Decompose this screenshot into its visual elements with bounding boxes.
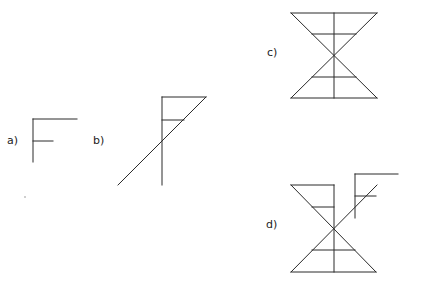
panel-d-label: d): [266, 218, 277, 231]
panel-c-label: c): [267, 46, 277, 59]
speck: [24, 196, 26, 198]
panel-a: a): [7, 119, 77, 162]
panel-a-label: a): [7, 134, 18, 147]
panel-d: d): [266, 174, 398, 272]
panel-b-label: b): [93, 134, 104, 147]
panel-b: b): [93, 97, 206, 185]
diagram-canvas: a) b) c) d): [0, 0, 425, 282]
panel-c: c): [267, 13, 377, 98]
